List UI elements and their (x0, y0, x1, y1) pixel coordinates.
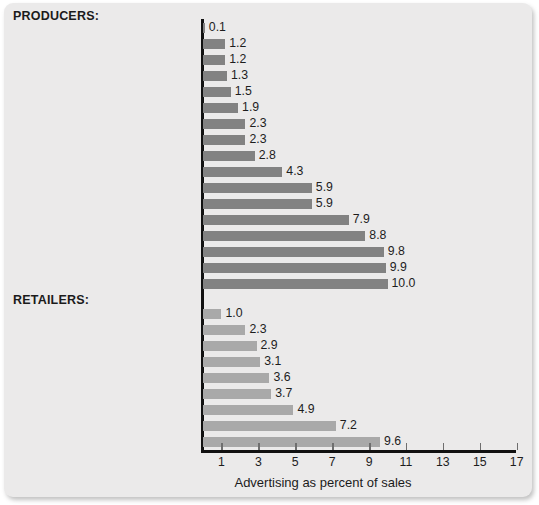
bar (203, 247, 384, 257)
bar (203, 263, 386, 273)
bar (203, 373, 269, 383)
bar (203, 87, 231, 97)
bar (203, 55, 225, 65)
bar-value-label: 0.1 (209, 20, 226, 34)
bar (203, 71, 227, 81)
bar (203, 231, 365, 241)
bar (203, 309, 221, 319)
bar (203, 23, 205, 33)
x-axis-tick-label: 9 (366, 455, 373, 469)
x-axis-tick (517, 443, 519, 450)
bar (203, 183, 312, 193)
bar-chart: PRODUCERS: RETAILERS: Advertising as per… (4, 3, 532, 497)
bar-value-label: 7.9 (353, 212, 370, 226)
bar-value-label: 1.0 (225, 306, 242, 320)
bar (203, 405, 293, 415)
x-axis-tick (480, 443, 482, 450)
bar-value-label: 3.6 (273, 370, 290, 384)
bar-value-label: 1.3 (231, 68, 248, 82)
x-axis-tick-label: 3 (255, 455, 262, 469)
bar (203, 199, 312, 209)
x-axis-tick (443, 443, 445, 450)
bar (203, 39, 225, 49)
bar-value-label: 2.9 (261, 338, 278, 352)
bar (203, 325, 245, 335)
section-heading-producers: PRODUCERS: (13, 9, 99, 23)
bar-value-label: 2.3 (249, 116, 266, 130)
x-axis-tick-label: 5 (292, 455, 299, 469)
bar (203, 279, 388, 289)
bar (203, 119, 245, 129)
bar-value-label: 5.9 (316, 180, 333, 194)
x-axis-line (201, 450, 516, 453)
bar (203, 151, 255, 161)
x-axis-tick-label: 7 (329, 455, 336, 469)
x-axis-tick (295, 443, 297, 450)
bar-value-label: 1.2 (229, 36, 246, 50)
bar-value-label: 9.9 (390, 260, 407, 274)
bar (203, 389, 271, 399)
bar-value-label: 2.3 (249, 132, 266, 146)
bar-value-label: 9.6 (384, 434, 401, 448)
x-axis-tick (406, 443, 408, 450)
x-axis-tick-label: 17 (510, 455, 524, 469)
section-heading-retailers: RETAILERS: (13, 293, 89, 307)
bar (203, 215, 349, 225)
bar-value-label: 2.3 (249, 322, 266, 336)
x-axis-tick (221, 443, 223, 450)
bar (203, 421, 336, 431)
bar-value-label: 5.9 (316, 196, 333, 210)
x-axis-tick (369, 443, 371, 450)
bar (203, 103, 238, 113)
bar-value-label: 3.1 (264, 354, 281, 368)
bar (203, 135, 245, 145)
bar-value-label: 3.7 (275, 386, 292, 400)
bar (203, 341, 257, 351)
x-axis-title: Advertising as percent of sales (4, 475, 532, 490)
bar (203, 357, 260, 367)
x-axis-tick (258, 443, 260, 450)
bar (203, 167, 282, 177)
bar-value-label: 4.9 (297, 402, 314, 416)
bar-value-label: 2.8 (259, 148, 276, 162)
bar-value-label: 1.5 (235, 84, 252, 98)
chart-card: PRODUCERS: RETAILERS: Advertising as per… (4, 3, 532, 497)
bar-value-label: 7.2 (340, 418, 357, 432)
bar-value-label: 1.2 (229, 52, 246, 66)
bar-value-label: 4.3 (286, 164, 303, 178)
x-axis-tick-label: 1 (218, 455, 225, 469)
x-axis-tick (332, 443, 334, 450)
x-axis-tick-label: 11 (400, 455, 413, 469)
bar (203, 437, 380, 447)
bar-value-label: 10.0 (392, 276, 416, 290)
bar-value-label: 9.8 (388, 244, 405, 258)
x-axis-tick-label: 15 (473, 455, 487, 469)
x-axis-tick-label: 13 (436, 455, 450, 469)
bar-value-label: 8.8 (369, 228, 386, 242)
bar-value-label: 1.9 (242, 100, 259, 114)
